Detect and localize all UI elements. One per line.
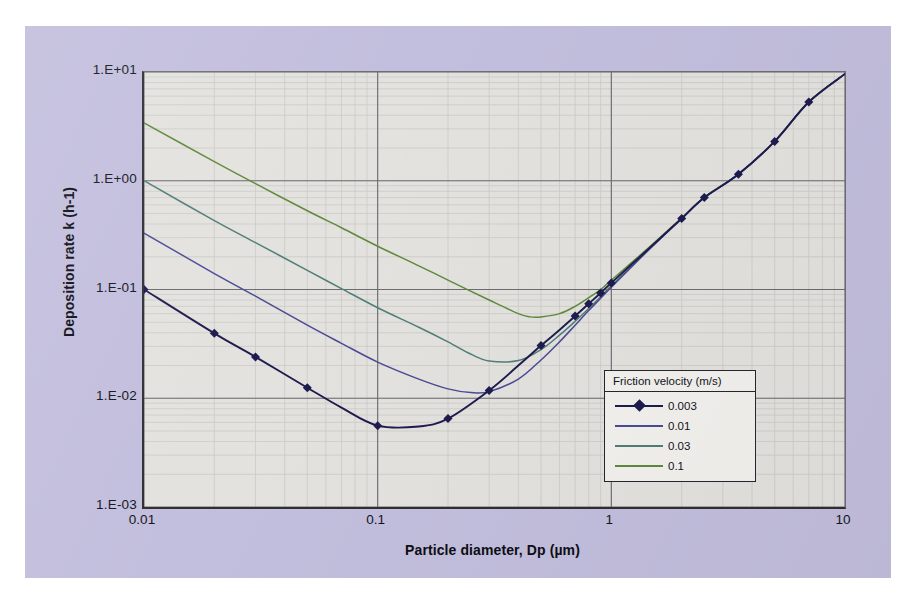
legend-swatch (611, 419, 665, 433)
legend-entry-0.01: 0.01 (611, 416, 749, 436)
legend-swatch (611, 459, 665, 473)
y-axis-title: Deposition rate k (h-1) (61, 132, 77, 392)
x-axis-tick-label: 1 (574, 512, 644, 527)
legend-swatch (611, 439, 665, 453)
x-axis-tick-label: 0.1 (341, 512, 411, 527)
data-point-marker (210, 329, 219, 338)
data-point-marker (373, 421, 382, 430)
legend-label: 0.03 (665, 440, 690, 452)
legend-label: 0.1 (665, 460, 684, 472)
data-point-marker (444, 414, 453, 423)
x-axis-tick-label: 10 (808, 512, 878, 527)
legend-label: 0.01 (665, 420, 690, 432)
x-axis-tick-label: 0.01 (107, 512, 177, 527)
y-axis-tick-label: 1.E+01 (57, 62, 137, 77)
legend-entry-0.03: 0.03 (611, 436, 749, 456)
data-point-marker (251, 352, 260, 361)
legend-swatch (611, 399, 665, 413)
chart-figure: 1.E+011.E+001.E-011.E-021.E-03 Depositio… (25, 26, 891, 578)
series-line-0.03 (144, 74, 845, 362)
page-background: 1.E+011.E+001.E-011.E-021.E-03 Depositio… (0, 0, 911, 608)
legend-title: Friction velocity (m/s) (605, 371, 755, 392)
y-axis-tick-label: 1.E-03 (57, 497, 137, 512)
legend-items: 0.0030.010.030.1 (605, 392, 755, 481)
x-axis-tick-labels: 0.010.1110 (142, 512, 843, 534)
legend-entry-0.1: 0.1 (611, 456, 749, 476)
legend-label: 0.003 (665, 400, 697, 412)
legend-entry-0.003: 0.003 (611, 396, 749, 416)
series-line-0.1 (144, 74, 845, 317)
data-point-marker (303, 383, 312, 392)
chart-legend: Friction velocity (m/s) 0.0030.010.030.1 (604, 370, 756, 482)
series-line-0.01 (144, 74, 845, 393)
x-axis-title: Particle diameter, Dp (µm) (142, 542, 843, 558)
